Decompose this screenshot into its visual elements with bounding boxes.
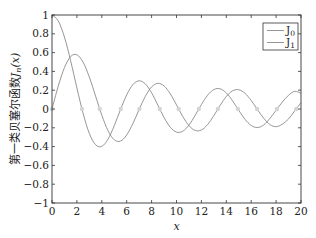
- zero-marker: [294, 107, 298, 111]
- legend: J0 J1: [263, 23, 298, 50]
- zero-marker: [80, 107, 84, 111]
- y-tick-label: 0: [42, 103, 49, 115]
- x-tick-label: 14: [220, 205, 234, 217]
- zero-marker: [158, 107, 162, 111]
- series-line-j1: [52, 54, 301, 141]
- y-tick-label: −0.8: [24, 178, 50, 190]
- y-axis-label-prefix: 第一类贝塞尔函数: [8, 77, 22, 165]
- zero-marker: [216, 107, 220, 111]
- y-tick-label: −0.6: [24, 159, 50, 171]
- y-tick-label: −1: [34, 197, 49, 209]
- y-tick-label: 1: [42, 9, 49, 21]
- zero-marker: [98, 107, 102, 111]
- bessel-chart: −1−0.8−0.6−0.4−0.200.20.40.60.81 0246810…: [0, 0, 316, 238]
- zero-marker: [275, 107, 279, 111]
- x-tick-label: 10: [170, 205, 183, 217]
- y-tick-label: 0.6: [32, 46, 49, 58]
- y-axis-label: 第一类贝塞尔函数Jn(x): [8, 53, 23, 165]
- svg-text:第一类贝塞尔函数Jn(x): 第一类贝塞尔函数Jn(x): [8, 53, 23, 165]
- zero-marker: [119, 107, 123, 111]
- zero-marker: [255, 107, 259, 111]
- x-tick-label: 16: [245, 205, 259, 217]
- y-tick-label: −0.4: [24, 140, 50, 152]
- y-tick-label: 0.8: [32, 27, 49, 39]
- x-axis-label: x: [173, 220, 180, 233]
- x-tick-label: 18: [269, 205, 282, 217]
- x-tick-label: 6: [123, 205, 130, 217]
- x-tick-label: 0: [49, 205, 56, 217]
- y-axis-label-arg: (x): [9, 53, 22, 68]
- x-tick-label: 2: [74, 205, 81, 217]
- x-tick-label: 8: [148, 205, 155, 217]
- zero-marker: [137, 107, 141, 111]
- y-tick-label: 0.2: [32, 84, 49, 96]
- zero-marker: [197, 107, 201, 111]
- x-tick-label: 12: [195, 205, 208, 217]
- zero-marker: [236, 107, 240, 111]
- zero-marker: [176, 107, 180, 111]
- y-tick-label: −0.2: [24, 121, 50, 133]
- y-tick-label: 0.4: [32, 65, 49, 77]
- x-tick-label: 4: [98, 205, 105, 217]
- x-tick-label: 20: [294, 205, 307, 217]
